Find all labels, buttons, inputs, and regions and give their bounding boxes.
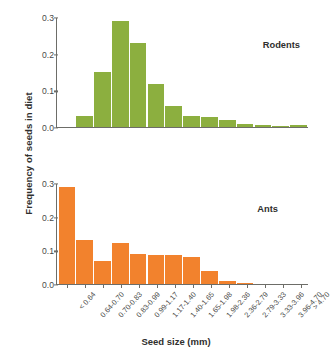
bar (165, 106, 182, 127)
x-tick-mark (121, 285, 122, 288)
x-tick-mark (139, 285, 140, 288)
bar (272, 126, 289, 127)
x-tick-label: < 0.64 (76, 290, 97, 311)
y-tick-mark (54, 284, 58, 285)
x-tick-mark (283, 285, 284, 288)
y-tick-mark (54, 217, 58, 218)
bar-series-rodents (57, 18, 308, 127)
y-tick-label: 0.1 (32, 246, 54, 256)
bar (112, 21, 129, 127)
x-axis-title: Seed size (mm) (0, 336, 324, 347)
bar (183, 257, 200, 284)
plot-area-rodents: 0.00.10.20.3 (56, 18, 308, 128)
bar (201, 271, 218, 284)
bar (219, 281, 236, 284)
bar (290, 125, 307, 127)
x-tick-mark (103, 285, 104, 288)
x-tick-mark (175, 285, 176, 288)
bar (76, 116, 93, 127)
bar (237, 124, 254, 127)
y-tick-label: 0.0 (32, 123, 54, 133)
y-tick-label: 0.2 (32, 213, 54, 223)
bar (76, 240, 93, 284)
y-tick-mark (54, 251, 58, 252)
y-tick-mark (54, 17, 58, 18)
x-tick-mark (229, 285, 230, 288)
x-tick-mark (67, 285, 68, 288)
y-tick-mark (54, 91, 58, 92)
panel-rodents: 0.00.10.20.3 Rodents (56, 18, 308, 128)
bar (201, 117, 218, 127)
x-tick-mark (193, 285, 194, 288)
bar (237, 283, 254, 284)
y-tick-label: 0.3 (32, 13, 54, 23)
panel-ants: 0.00.10.20.3 < 0.640.64-0.700.70-0.830.8… (56, 184, 308, 285)
bar (148, 84, 165, 127)
y-tick-label: 0.1 (32, 86, 54, 96)
x-tick-mark (211, 285, 212, 288)
plot-area-ants: 0.00.10.20.3 (56, 184, 308, 285)
y-tick-label: 0.3 (32, 179, 54, 189)
bar (183, 116, 200, 127)
series-label-rodents: Rodents (263, 40, 300, 50)
bar (94, 261, 111, 284)
y-tick-label: 0.2 (32, 50, 54, 60)
bar (59, 187, 76, 284)
bar (255, 125, 272, 127)
y-tick-mark (54, 54, 58, 55)
bar (112, 243, 129, 284)
bar (130, 254, 147, 284)
bar (219, 120, 236, 127)
bar (130, 43, 147, 127)
series-label-ants: Ants (257, 204, 278, 214)
x-tick-mark (247, 285, 248, 288)
bar (165, 255, 182, 284)
x-tick-mark (301, 285, 302, 288)
x-tick-mark (265, 285, 266, 288)
bar-series-ants (57, 184, 308, 284)
x-tick-mark (157, 285, 158, 288)
bar (148, 255, 165, 284)
bar (94, 72, 111, 127)
x-tick-mark (85, 285, 86, 288)
y-tick-mark (54, 127, 58, 128)
y-tick-label: 0.0 (32, 280, 54, 290)
y-tick-mark (54, 183, 58, 184)
